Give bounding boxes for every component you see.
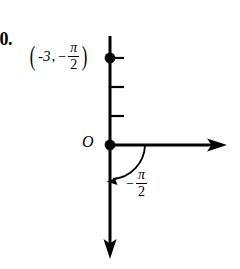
polar-coordinate-figure: 20. ( -3 , − π 2 ) O − π 2 — [0, 0, 240, 269]
origin-marker — [105, 140, 116, 151]
plotted-point-marker — [105, 53, 116, 64]
angle-arc — [113, 145, 145, 179]
axes-and-plot — [0, 0, 240, 269]
